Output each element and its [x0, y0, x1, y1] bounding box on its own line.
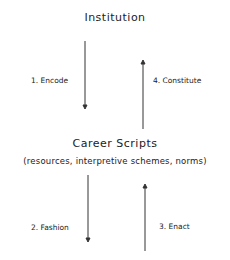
- arrow-label-constitute: 4. Constitute: [153, 76, 201, 85]
- arrow-label-encode: 1. Encode: [31, 76, 68, 85]
- arrow-label-fashion: 2. Fashion: [31, 223, 69, 232]
- arrow-fashion-down: [86, 175, 90, 242]
- arrows-layer: [0, 0, 230, 260]
- career-scripts-node-label: Career Scripts: [0, 137, 230, 150]
- arrow-label-enact: 3. Enact: [159, 222, 190, 231]
- career-scripts-sublabel: (resources, interpretive schemes, norms): [0, 156, 230, 166]
- arrow-constitute-up: [141, 60, 145, 129]
- arrow-enact-up: [143, 184, 147, 251]
- arrow-encode-down: [83, 41, 87, 109]
